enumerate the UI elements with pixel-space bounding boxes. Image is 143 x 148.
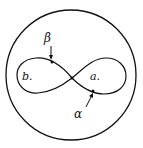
label-b-region: b. <box>22 70 33 83</box>
basepoint-bottom-dot <box>92 90 95 93</box>
diagram: β b. a. α <box>0 0 143 148</box>
crossing-point <box>71 77 74 80</box>
basepoint-top-dot <box>51 61 54 64</box>
label-alpha: α <box>74 107 82 121</box>
label-beta: β <box>43 31 51 45</box>
beta-arrowhead-icon <box>49 55 53 60</box>
label-a-region: a. <box>90 70 100 83</box>
figure-eight-curve <box>17 58 126 94</box>
